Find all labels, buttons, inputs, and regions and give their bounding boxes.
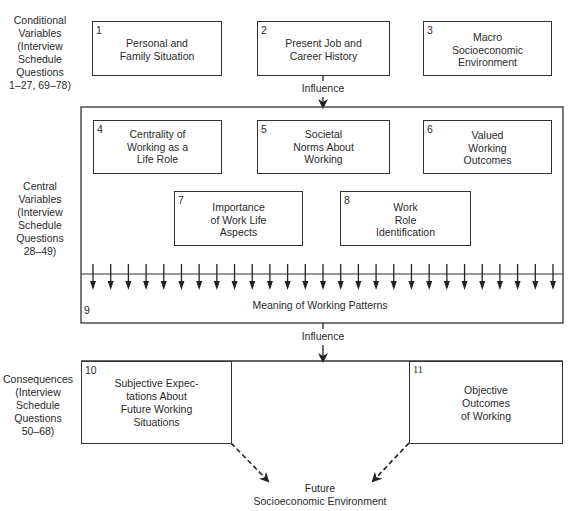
box-personal-family-situation: 1 Personal and Family Situation — [92, 21, 222, 76]
box-number: 10 — [85, 364, 97, 376]
box-importance-work-life: 7 Importance of Work Life Aspects — [174, 191, 303, 246]
consequences-label: Consequences (Interview Schedule Questio… — [2, 373, 74, 438]
pattern-arrowhead — [373, 281, 379, 290]
box-label: Subjective Expec- tations About Future W… — [82, 377, 231, 429]
box-subjective-expectations: 10 Subjective Expec- tations About Futur… — [81, 361, 232, 444]
pattern-arrowhead — [285, 281, 291, 290]
conditional-variables-label: Conditional Variables (Interview Schedul… — [4, 14, 76, 92]
pattern-arrowhead — [178, 281, 184, 290]
box-label: Objective Outcomes of Working — [410, 384, 562, 423]
box-label: Present Job and Career History — [258, 37, 389, 62]
future-socioeconomic-environment-label: Future Socioeconomic Environment — [220, 482, 420, 508]
box-label: Valued Working Outcomes — [424, 129, 551, 167]
box-9-number: 9 — [84, 304, 90, 317]
pattern-arrowhead — [532, 281, 538, 290]
box-label: Personal and Family Situation — [93, 37, 221, 62]
box-number: 2 — [261, 24, 267, 36]
pattern-arrowhead — [550, 281, 556, 290]
pattern-arrowhead — [196, 281, 202, 290]
box-label: Societal Norms About Working — [258, 128, 389, 166]
pattern-arrowhead — [426, 281, 432, 290]
pattern-arrowhead — [249, 281, 255, 290]
pattern-arrowhead — [355, 281, 361, 290]
box-work-role-identification: 8 Work Role Identification — [340, 191, 471, 246]
influence-label-bottom: Influence — [283, 330, 363, 343]
pattern-arrowhead — [214, 281, 220, 290]
box-number: 11 — [413, 364, 423, 375]
box-label: Importance of Work Life Aspects — [175, 201, 302, 239]
pattern-arrowhead — [408, 281, 414, 290]
pattern-arrowhead — [391, 281, 397, 290]
pattern-arrowhead — [479, 281, 485, 290]
pattern-arrowhead — [497, 281, 503, 290]
box-societal-norms: 5 Societal Norms About Working — [257, 120, 390, 174]
meaning-of-working-patterns-label: Meaning of Working Patterns — [220, 299, 420, 312]
pattern-arrowhead — [90, 281, 96, 290]
box-macro-socioeconomic: 3 Macro Socioeconomic Environment — [423, 21, 552, 76]
box-present-job-career: 2 Present Job and Career History — [257, 21, 390, 76]
pattern-arrows — [90, 264, 556, 290]
dashed-arrow-left — [231, 443, 268, 481]
pattern-arrowhead — [320, 281, 326, 290]
pattern-arrowhead — [232, 281, 238, 290]
influence-label-top: Influence — [283, 82, 363, 95]
pattern-arrowhead — [161, 281, 167, 290]
pattern-arrowhead — [338, 281, 344, 290]
box-valued-working-outcomes: 6 Valued Working Outcomes — [423, 120, 552, 174]
pattern-arrowhead — [444, 281, 450, 290]
pattern-arrowhead — [143, 281, 149, 290]
pattern-arrowhead — [108, 281, 114, 290]
pattern-arrowhead — [125, 281, 131, 290]
box-objective-outcomes: 11 Objective Outcomes of Working — [409, 361, 563, 444]
pattern-arrowhead — [462, 281, 468, 290]
box-number: 1 — [96, 24, 102, 36]
box-label: Work Role Identification — [341, 201, 470, 239]
box-centrality-of-working: 4 Centrality of Working as a Life Role — [93, 120, 222, 174]
pattern-arrowhead — [302, 281, 308, 290]
pattern-arrowhead — [267, 281, 273, 290]
box-label: Centrality of Working as a Life Role — [94, 128, 221, 166]
box-label: Macro Socioeconomic Environment — [424, 31, 551, 69]
dashed-arrow-right — [373, 443, 409, 481]
central-variables-label: Central Variables (Interview Schedule Qu… — [4, 180, 76, 258]
pattern-arrowhead — [515, 281, 521, 290]
meaning-of-working-diagram: Conditional Variables (Interview Schedul… — [0, 0, 570, 511]
